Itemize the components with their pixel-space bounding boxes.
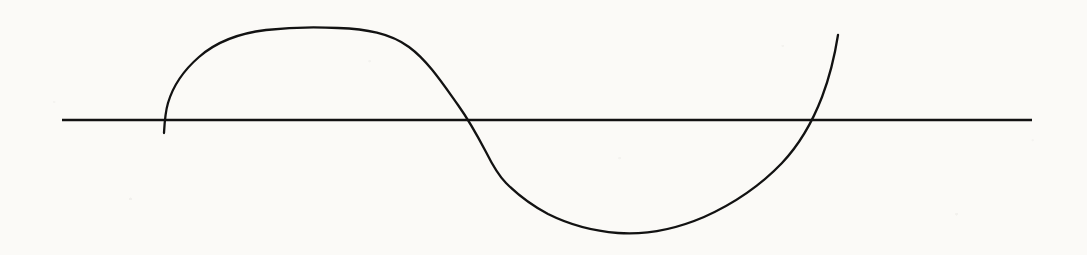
figure-canvas xyxy=(0,0,1087,255)
curve-figure-svg xyxy=(0,0,1087,255)
s-curve-path xyxy=(164,27,838,233)
